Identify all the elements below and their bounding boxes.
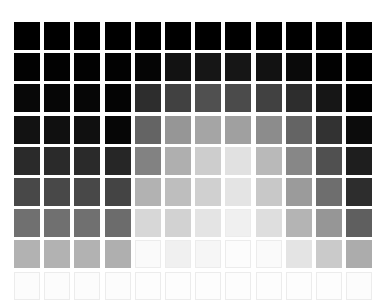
gray-tile — [74, 240, 100, 268]
gray-tile — [346, 53, 372, 81]
gray-tile — [346, 116, 372, 144]
gray-tile — [346, 209, 372, 237]
gray-tile — [44, 147, 70, 175]
gray-tile — [316, 178, 342, 206]
gray-tile — [286, 116, 312, 144]
gray-tile — [225, 272, 251, 300]
gray-tile — [14, 84, 40, 112]
gray-tile — [44, 116, 70, 144]
gray-tile — [74, 178, 100, 206]
gray-tile — [256, 53, 282, 81]
gray-tile — [165, 22, 191, 50]
gray-tile — [14, 147, 40, 175]
gray-tile — [286, 178, 312, 206]
gray-tile — [14, 240, 40, 268]
gray-tile — [14, 22, 40, 50]
gray-tile — [316, 272, 342, 300]
gray-tile — [286, 209, 312, 237]
gray-tile — [316, 53, 342, 81]
gray-tile — [256, 116, 282, 144]
gray-tile — [195, 22, 221, 50]
gray-tile — [44, 84, 70, 112]
gray-tile — [346, 22, 372, 50]
gray-tile — [105, 53, 131, 81]
gray-tile — [316, 147, 342, 175]
gray-tile — [256, 84, 282, 112]
gray-tile — [195, 240, 221, 268]
gray-tile — [44, 22, 70, 50]
gray-tile — [256, 22, 282, 50]
gray-tile — [135, 240, 161, 268]
gray-tile — [346, 84, 372, 112]
gray-tile — [256, 240, 282, 268]
gray-tile — [14, 209, 40, 237]
gray-tile — [195, 272, 221, 300]
gray-tile — [105, 240, 131, 268]
gray-tile — [44, 178, 70, 206]
gray-tile — [316, 84, 342, 112]
gray-tile — [105, 116, 131, 144]
gray-tile — [286, 84, 312, 112]
gray-tile — [135, 116, 161, 144]
gray-tile — [225, 147, 251, 175]
gray-tile — [74, 84, 100, 112]
gray-tile — [74, 147, 100, 175]
gray-tile — [165, 53, 191, 81]
gray-tile — [256, 178, 282, 206]
gray-tile — [135, 53, 161, 81]
gray-tile — [74, 272, 100, 300]
gray-tile — [105, 272, 131, 300]
gray-tile — [74, 22, 100, 50]
gray-tile — [195, 209, 221, 237]
gray-tile — [105, 22, 131, 50]
gray-tile — [316, 209, 342, 237]
gray-tile — [225, 240, 251, 268]
gray-tile — [195, 53, 221, 81]
gray-tile — [316, 116, 342, 144]
gray-tile — [225, 116, 251, 144]
gray-tile — [74, 209, 100, 237]
gray-tile — [286, 272, 312, 300]
gray-tile — [44, 272, 70, 300]
gray-tile — [165, 116, 191, 144]
gray-tile — [105, 84, 131, 112]
grayscale-tile-grid — [14, 22, 372, 303]
gray-tile — [14, 116, 40, 144]
gray-tile — [44, 209, 70, 237]
gray-tile — [195, 116, 221, 144]
gray-tile — [225, 178, 251, 206]
gray-tile — [256, 272, 282, 300]
gray-tile — [135, 22, 161, 50]
gray-tile — [286, 22, 312, 50]
gray-tile — [165, 178, 191, 206]
gray-tile — [135, 84, 161, 112]
gray-tile — [316, 240, 342, 268]
gray-tile — [165, 272, 191, 300]
gray-tile — [286, 53, 312, 81]
gray-tile — [225, 22, 251, 50]
gray-tile — [44, 53, 70, 81]
gray-tile — [105, 178, 131, 206]
gray-tile — [256, 209, 282, 237]
gray-tile — [286, 147, 312, 175]
gray-tile — [74, 53, 100, 81]
gray-tile — [346, 272, 372, 300]
gray-tile — [135, 272, 161, 300]
gray-tile — [225, 84, 251, 112]
gray-tile — [74, 116, 100, 144]
gray-tile — [195, 178, 221, 206]
gray-tile — [225, 53, 251, 81]
gray-tile — [346, 240, 372, 268]
gray-tile — [135, 147, 161, 175]
gray-tile — [286, 240, 312, 268]
gray-tile — [165, 240, 191, 268]
gray-tile — [346, 147, 372, 175]
gray-tile — [44, 240, 70, 268]
gray-tile — [135, 209, 161, 237]
gray-tile — [105, 209, 131, 237]
gray-tile — [346, 178, 372, 206]
gray-tile — [316, 22, 342, 50]
gray-tile — [105, 147, 131, 175]
gray-tile — [195, 84, 221, 112]
gray-tile — [165, 209, 191, 237]
